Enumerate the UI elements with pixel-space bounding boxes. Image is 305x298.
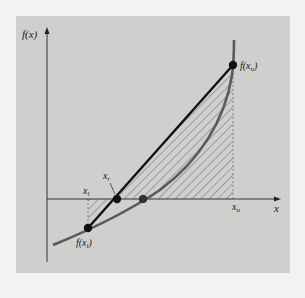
- x-axis-label: x: [273, 202, 279, 214]
- point-f-xu: [229, 61, 237, 69]
- y-axis-label: f(x): [22, 28, 38, 41]
- point-true-root: [139, 195, 147, 203]
- point-f-xl: [84, 224, 92, 232]
- figure-panel: [16, 16, 290, 273]
- false-position-diagram: f(x) x f(xu) f(xl) xl xr xu: [0, 0, 305, 298]
- point-xr: [113, 195, 121, 203]
